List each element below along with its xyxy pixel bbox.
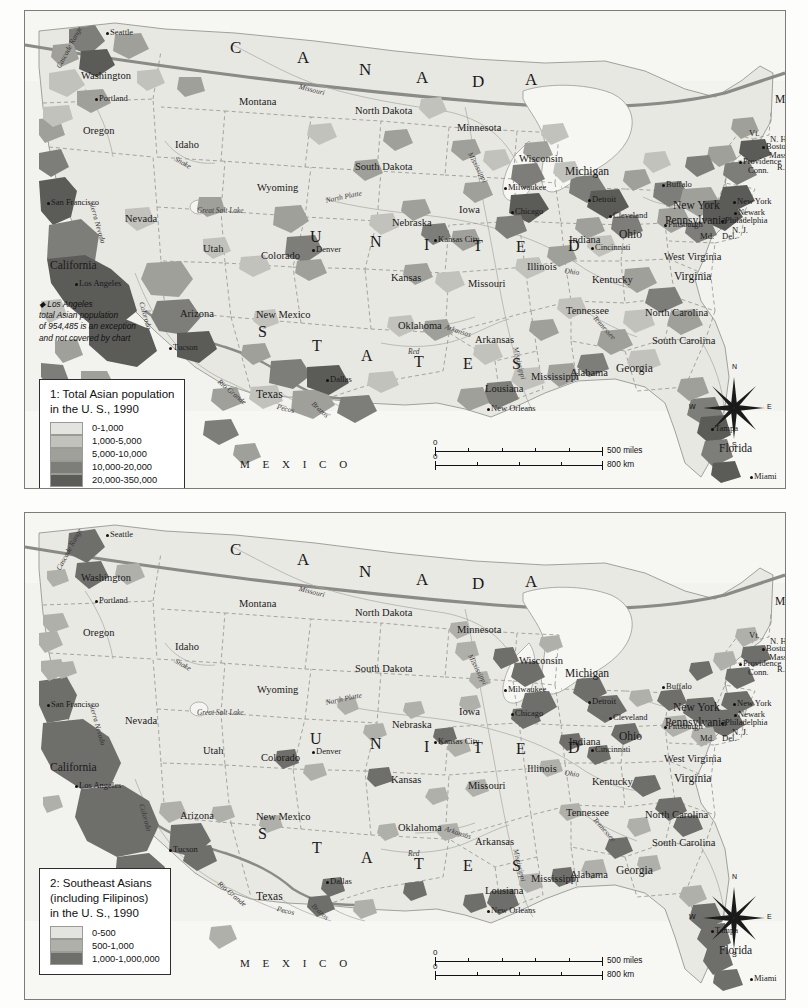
state-label-arkansas: Arkansas <box>475 335 514 346</box>
city-label-dallas: Dallas <box>330 375 352 384</box>
state-label-washington: Washington <box>81 573 131 584</box>
city-label-cincinnati: Cincinnati <box>595 243 630 252</box>
state-label-california: California <box>50 260 97 272</box>
state-label-oklahoma: Oklahoma <box>398 321 442 332</box>
city-dot <box>739 161 742 164</box>
state-abbr-md-: Md. <box>700 232 714 241</box>
city-dot <box>511 713 514 716</box>
physical-feature-mississippi: Mississippi <box>512 346 527 380</box>
state-label-michigan: Michigan <box>565 668 609 680</box>
city-dot <box>588 199 591 202</box>
state-abbr-del-: Del. <box>722 734 737 743</box>
city-dot <box>664 726 667 729</box>
physical-feature-rio-grande: Rio Grande <box>216 880 247 908</box>
state-label-lousiana: Lousiana <box>485 886 524 897</box>
state-label-maine: Maine <box>775 94 786 106</box>
physical-feature-sierra-nevada: Sierra Nevada <box>88 201 107 244</box>
state-label-west-virginia: West Virginia <box>664 754 721 765</box>
physical-feature-arkansas: Arkansas <box>444 323 472 339</box>
united-states-letter: S <box>258 324 267 340</box>
city-dot <box>762 648 765 651</box>
state-abbr-mass-: Mass. <box>769 653 786 662</box>
city-dot <box>47 704 50 707</box>
physical-feature-mississippi: Mississippi <box>512 848 527 882</box>
state-label-new-york: New York <box>673 200 720 212</box>
city-dot <box>504 187 507 190</box>
city-label-los-angeles: Los Angeles <box>79 279 121 288</box>
scale-zero-km-2: 0 <box>433 962 437 971</box>
city-dot <box>664 224 667 227</box>
country-label-mexico: M E X I C O <box>240 958 352 969</box>
legend-class-row: 1,000-5,000 <box>50 435 174 447</box>
united-states-letter: U <box>310 731 322 747</box>
united-states-letter: E <box>463 858 473 874</box>
city-label-philadelphia: Philadelphia <box>725 216 768 225</box>
country-label-mexico: M E X I C O <box>240 459 352 470</box>
physical-feature-sierra-nevada: Sierra Nevada <box>88 703 107 746</box>
city-dot <box>511 211 514 214</box>
physical-feature-red: Red <box>408 348 420 355</box>
compass-star-icon <box>697 371 771 445</box>
legend-class-label: 5,000-10,000 <box>92 449 147 459</box>
city-dot <box>487 408 490 411</box>
state-abbr-mass-: Mass. <box>769 151 786 160</box>
country-label-canada: C <box>230 541 242 558</box>
legend-color-swatch <box>50 448 83 461</box>
united-states-letter: T <box>312 840 322 856</box>
legend-class-label: 0-1,000 <box>92 423 124 433</box>
city-label-detroit: Detroit <box>592 195 616 204</box>
city-dot <box>734 714 737 717</box>
state-label-iowa: Iowa <box>459 205 480 216</box>
state-label-virginia: Virginia <box>674 271 711 283</box>
legend-1-title: 1: Total Asian population in the U. S., … <box>50 387 174 417</box>
physical-feature-cascade-range: Cascade Range <box>55 527 83 571</box>
physical-feature-great-salt-lake: Great Salt Lake <box>197 207 244 214</box>
city-dot <box>721 220 724 223</box>
state-label-north-carolina: North Carolina <box>645 810 708 821</box>
city-dot <box>75 785 78 788</box>
scale-line-miles-1: 0 500 miles <box>435 451 603 452</box>
physical-feature-snake: Snake <box>173 657 192 672</box>
city-label-detroit: Detroit <box>592 697 616 706</box>
state-label-maine: Maine <box>775 596 786 608</box>
state-label-missouri: Missouri <box>468 279 505 290</box>
state-abbr-del-: Del. <box>722 232 737 241</box>
state-label-tennessee: Tennessee <box>566 808 609 819</box>
city-dot <box>106 32 109 35</box>
legend-class-row: 1,000-1,000,000 <box>50 953 160 965</box>
scale-label-miles-2: 500 miles <box>607 955 643 965</box>
city-label-pittsburgh: Pittsburgh <box>668 722 703 731</box>
state-label-south-carolina: South Carolina <box>652 838 715 849</box>
scale-line-miles-2: 0 500 miles <box>435 961 603 962</box>
state-label-south-dakota: South Dakota <box>355 162 412 173</box>
legend-map-1: 1: Total Asian population in the U. S., … <box>39 379 185 489</box>
city-dot <box>750 978 753 981</box>
physical-feature-cascade-range: Cascade Range <box>55 25 83 69</box>
state-abbr-r-i-: R. I. <box>777 163 786 172</box>
legend-map-2: 2: Southeast Asians (including Filipinos… <box>39 868 171 975</box>
country-label-canada: A <box>525 71 538 88</box>
country-label-canada: A <box>416 571 429 588</box>
state-label-nebraska: Nebraska <box>392 720 432 731</box>
country-label-canada: N <box>359 61 372 78</box>
legend-2-classes: 0-500500-1,0001,000-1,000,000 <box>50 927 160 965</box>
state-label-alabama: Alabama <box>570 368 608 379</box>
state-label-north-dakota: North Dakota <box>355 608 412 619</box>
compass-west-label-2: W <box>689 913 696 920</box>
state-label-montana: Montana <box>239 599 276 610</box>
city-dot <box>662 184 665 187</box>
scale-zero-miles-1: 0 <box>433 438 437 447</box>
city-dot <box>434 239 437 242</box>
legend-color-swatch <box>50 435 83 448</box>
city-dot <box>169 849 172 852</box>
united-states-letter: A <box>361 348 373 364</box>
city-label-dallas: Dallas <box>330 877 352 886</box>
legend-2-title-line2: (including Filipinos) <box>50 892 148 904</box>
scale-label-km-2: 800 km <box>607 969 634 979</box>
legend-color-swatch <box>50 952 83 965</box>
physical-feature-brazos: Brazos <box>310 400 330 419</box>
physical-feature-north-platte: North Platte <box>325 189 362 204</box>
city-dot <box>733 201 736 204</box>
scale-zero-km-1: 0 <box>433 452 437 461</box>
city-label-chicago: Chicago <box>515 207 543 216</box>
